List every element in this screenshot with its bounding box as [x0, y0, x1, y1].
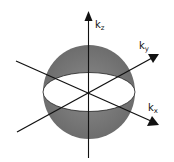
kx-label: kx	[148, 102, 158, 115]
kz-label: kz	[95, 19, 105, 32]
ky-arrowhead-icon	[148, 54, 159, 63]
kx-arrowhead-icon	[147, 116, 159, 126]
kz-arrowhead-icon	[85, 11, 93, 21]
ky-label: ky	[139, 40, 149, 53]
k-space-diagram: kz ky kx	[0, 0, 174, 162]
